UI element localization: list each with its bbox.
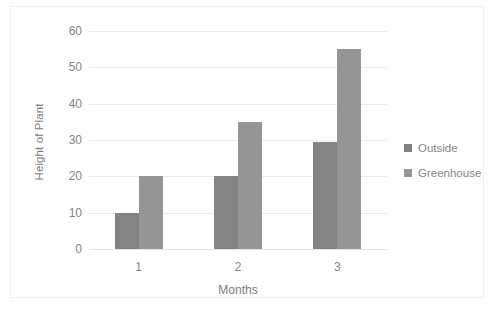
bars-layer <box>89 31 387 249</box>
y-axis-title: Height of Plant <box>29 27 49 257</box>
bar-group <box>115 31 163 249</box>
bar-group <box>214 31 262 249</box>
legend-item-outside[interactable]: Outside <box>404 142 496 154</box>
y-axis-tick-label: 20 <box>69 169 82 183</box>
legend-label: Greenhouse <box>418 167 481 179</box>
y-axis-title-label: Height of Plant <box>33 104 45 181</box>
bar-greenhouse-month-3 <box>337 49 361 249</box>
plot-area: 0102030405060 123 <box>89 31 387 249</box>
bar-outside-month-2 <box>214 176 238 249</box>
legend-swatch-icon <box>404 144 412 152</box>
y-axis-tick-label: 50 <box>69 60 82 74</box>
bar-group <box>313 31 361 249</box>
y-axis-tick-label: 40 <box>69 97 82 111</box>
bar-greenhouse-month-1 <box>139 176 163 249</box>
y-axis-tick-label: 0 <box>75 242 82 256</box>
legend-item-greenhouse[interactable]: Greenhouse <box>404 167 496 179</box>
gridline <box>89 249 387 250</box>
bar-outside-month-1 <box>115 213 139 249</box>
y-axis-tick-label: 30 <box>69 133 82 147</box>
bar-outside-month-3 <box>313 142 337 249</box>
legend-swatch-icon <box>404 169 412 177</box>
bar-greenhouse-month-2 <box>238 122 262 249</box>
y-axis-tick-label: 60 <box>69 24 82 38</box>
chart-frame: Height of Plant 0102030405060 123 Months… <box>10 6 484 298</box>
legend-label: Outside <box>418 142 458 154</box>
x-axis-tick-label: 1 <box>135 260 142 274</box>
y-axis-tick-label: 10 <box>69 206 82 220</box>
chart-legend: OutsideGreenhouse <box>404 142 496 192</box>
x-axis-title: Months <box>89 283 387 297</box>
x-axis-tick-label: 2 <box>235 260 242 274</box>
x-axis-tick-label: 3 <box>334 260 341 274</box>
